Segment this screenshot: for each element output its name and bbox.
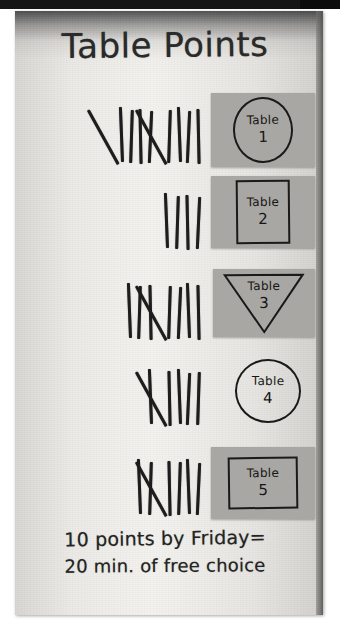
- table-label: Table: [247, 467, 280, 480]
- table-label: Table: [247, 196, 280, 209]
- tally-group-of-five: [120, 107, 151, 163]
- photo-top-band: [0, 0, 340, 9]
- tally-mark: [167, 461, 171, 516]
- reward-line-2: 20 min. of free choice: [15, 554, 315, 577]
- photo-top-band-right: [300, 0, 340, 9]
- tally-mark: [186, 283, 191, 338]
- tally-mark: [176, 107, 181, 162]
- tally-mark: [164, 193, 169, 248]
- tally-groups: [138, 459, 199, 515]
- tally-group-of-five: [168, 283, 199, 339]
- tally-area-table-1: [15, 91, 205, 167]
- tally-groups: [128, 283, 200, 339]
- tally-mark: [167, 371, 171, 426]
- table-card-3[interactable]: Table 3: [213, 269, 315, 337]
- chart-paper-poster: Table Points: [15, 11, 323, 615]
- tally-mark: [177, 462, 181, 515]
- tally-groups: [165, 193, 199, 249]
- tally-group-of-five: [168, 107, 199, 163]
- tally-mark: [195, 463, 200, 515]
- page-title: Table Points: [15, 23, 315, 66]
- tally-area-table-4: [15, 353, 205, 429]
- tally-mark: [185, 195, 189, 250]
- table-row: Table 2: [15, 173, 316, 257]
- tally-mark: [167, 286, 171, 339]
- tally-mark: [196, 109, 200, 164]
- tally-mark: [167, 110, 171, 163]
- table-row: Table 1: [15, 87, 316, 171]
- table-row: Table 3: [15, 263, 316, 347]
- tally-mark: [196, 285, 200, 340]
- triangle-shape-icon: Table 3: [223, 272, 306, 335]
- circle-shape-icon: Table 4: [235, 359, 302, 424]
- table-row: Table 5: [15, 439, 316, 523]
- tally-slash-mark: [87, 109, 120, 165]
- tally-mark: [175, 196, 179, 249]
- tally-mark: [176, 369, 181, 424]
- screenshot-root: Table Points: [0, 0, 340, 635]
- tally-group-of-five: [168, 369, 199, 425]
- tally-area-table-5: [15, 443, 205, 519]
- tally-mark: [186, 111, 191, 163]
- table-number: 4: [263, 390, 273, 407]
- table-number: 5: [258, 482, 268, 499]
- tally-mark: [196, 372, 200, 425]
- tally-mark: [119, 107, 124, 162]
- tally-mark: [129, 110, 133, 163]
- table-number: 2: [258, 211, 268, 228]
- table-label: Table: [248, 280, 281, 293]
- tally-area-table-2: [15, 177, 205, 253]
- tally-groups: [149, 369, 200, 425]
- tally-area-table-3: [15, 267, 205, 343]
- table-number: 3: [259, 295, 269, 312]
- table-card-1[interactable]: Table 1: [211, 93, 315, 167]
- rectangle-shape-icon: Table 5: [228, 457, 299, 510]
- poster-right-edge: [316, 11, 323, 615]
- tally-groups: [120, 107, 199, 163]
- table-card-2[interactable]: Table 2: [211, 176, 315, 248]
- tally-mark: [126, 283, 131, 338]
- reward-note: 10 points by Friday= 20 min. of free cho…: [15, 527, 315, 576]
- rectangle-shape-icon: Table 2: [236, 180, 291, 245]
- tally-mark: [195, 197, 200, 249]
- table-card-5[interactable]: Table 5: [211, 447, 315, 519]
- tally-group-partial: [165, 193, 199, 249]
- table-row: Table 4: [15, 349, 316, 433]
- tally-mark: [186, 373, 191, 425]
- table-label: Table: [246, 114, 279, 127]
- table-number: 1: [258, 129, 268, 146]
- tally-group-of-five: [168, 459, 199, 515]
- table-label: Table: [252, 375, 285, 388]
- tally-mark: [176, 287, 181, 339]
- tally-mark: [186, 459, 191, 514]
- table-card-4[interactable]: Table 4: [220, 353, 316, 429]
- reward-line-1: 10 points by Friday=: [15, 525, 315, 551]
